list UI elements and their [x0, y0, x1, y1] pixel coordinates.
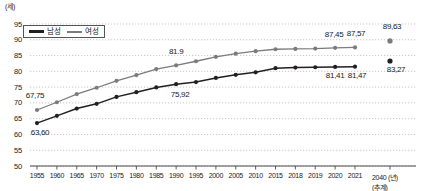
- y-tick-label: 60: [2, 130, 22, 139]
- data-point-marker: [333, 46, 337, 50]
- series-line-female: [37, 47, 355, 110]
- data-point-marker: [35, 108, 39, 112]
- data-point-marker: [234, 73, 238, 77]
- data-point-marker: [293, 65, 297, 69]
- y-tick-label: 70: [2, 98, 22, 107]
- data-point-marker: [35, 121, 39, 125]
- data-point-marker: [154, 85, 158, 89]
- legend-label-female: 여성: [85, 28, 98, 36]
- series-line-male: [37, 67, 355, 123]
- y-tick-label: 75: [2, 83, 22, 92]
- data-point-marker: [154, 67, 158, 71]
- x-tick-label: 1975: [109, 172, 123, 179]
- data-point-marker: [387, 38, 392, 43]
- data-point-marker: [234, 52, 238, 56]
- data-point-marker: [95, 86, 99, 90]
- x-tick-label: 2021: [348, 172, 362, 179]
- x-tick-label: 1970: [89, 172, 103, 179]
- data-point-label: 83,27: [387, 65, 406, 74]
- x-tick-label: 2005: [229, 172, 243, 179]
- data-point-marker: [194, 80, 198, 84]
- y-tick-label: 65: [2, 114, 22, 123]
- x-tick-label-projection: 2040 (년): [372, 172, 398, 182]
- data-point-label: 81,41: [326, 71, 345, 80]
- x-tick-label: 1955: [30, 172, 44, 179]
- data-point-label: 63,60: [31, 128, 50, 137]
- data-point-label: 81,47: [348, 71, 367, 80]
- x-tick-label: 2020: [328, 172, 342, 179]
- data-point-marker: [353, 65, 357, 69]
- data-point-marker: [194, 59, 198, 63]
- data-point-marker: [214, 76, 218, 80]
- data-point-marker: [313, 65, 317, 69]
- gridlines: [30, 24, 416, 166]
- x-tick-label: 1990: [169, 172, 183, 179]
- data-point-label: 67,75: [26, 91, 45, 100]
- data-point-marker: [254, 70, 258, 74]
- x-tick-label: 2018: [288, 172, 302, 179]
- life-expectancy-chart: (세) 95908580757065605550 195519601965197…: [0, 0, 425, 191]
- y-tick-label: 90: [2, 35, 22, 44]
- y-tick-label: 50: [2, 162, 22, 171]
- data-point-marker: [353, 45, 357, 49]
- y-tick-label: 80: [2, 67, 22, 76]
- data-point-label: 87,45: [325, 30, 344, 39]
- data-point-marker: [55, 114, 59, 118]
- data-point-marker: [214, 55, 218, 59]
- x-tick-label: 1985: [149, 172, 163, 179]
- legend-swatch-female: [67, 31, 82, 33]
- x-tick-label: 1960: [50, 172, 64, 179]
- data-point-marker: [273, 47, 277, 51]
- data-point-marker: [293, 47, 297, 51]
- x-tick-label: 1965: [70, 172, 84, 179]
- series-layer: [35, 38, 393, 125]
- data-point-label: 87,57: [347, 29, 366, 38]
- data-point-marker: [75, 106, 79, 110]
- data-point-label: 75,92: [171, 90, 190, 99]
- data-point-marker: [387, 58, 392, 63]
- chart-legend: 남성 여성: [23, 25, 105, 38]
- data-point-marker: [333, 65, 337, 69]
- x-tick-label: 2000: [209, 172, 223, 179]
- data-point-marker: [134, 73, 138, 77]
- x-tick-label: 1980: [129, 172, 143, 179]
- legend-item-male: 남성: [29, 28, 60, 36]
- data-point-marker: [114, 79, 118, 83]
- data-point-marker: [114, 95, 118, 99]
- data-point-marker: [254, 49, 258, 53]
- data-point-label: 89,63: [383, 22, 402, 31]
- data-point-marker: [174, 63, 178, 67]
- y-tick-label: 85: [2, 51, 22, 60]
- data-point-marker: [174, 82, 178, 86]
- x-tick-label: 1995: [189, 172, 203, 179]
- x-tick-label: 2015: [268, 172, 282, 179]
- data-point-marker: [273, 66, 277, 70]
- data-point-marker: [95, 102, 99, 106]
- y-tick-label: 55: [2, 146, 22, 155]
- data-point-marker: [55, 100, 59, 104]
- x-tick-label: 2019: [308, 172, 322, 179]
- data-point-marker: [75, 92, 79, 96]
- legend-swatch-male: [29, 30, 44, 33]
- data-point-marker: [313, 47, 317, 51]
- x-axis-projection-note: (추계): [372, 182, 387, 191]
- data-point-label: 81.9: [169, 47, 183, 56]
- legend-label-male: 남성: [47, 28, 60, 36]
- data-point-marker: [134, 90, 138, 94]
- y-tick-label: 95: [2, 20, 22, 29]
- x-tick-label: 2010: [248, 172, 262, 179]
- legend-item-female: 여성: [67, 28, 98, 36]
